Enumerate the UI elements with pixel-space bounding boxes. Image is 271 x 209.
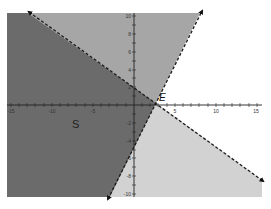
- x-tick-label: 15: [253, 108, 259, 114]
- inequality-graph: -15 -10 -5 5 10 15 10 8 6 4 2 -2 -4 -6 -…: [0, 0, 271, 209]
- y-tick-label: 4: [128, 67, 131, 73]
- y-tick-label: -8: [127, 173, 132, 179]
- y-tick-label: 8: [128, 31, 131, 37]
- x-tick-label: -15: [7, 108, 14, 114]
- x-tick-label: 5: [174, 108, 177, 114]
- y-tick-label: -2: [127, 120, 132, 126]
- y-tick-label: -10: [124, 191, 131, 197]
- y-tick-label: 6: [128, 49, 131, 55]
- solution-region-label-s: S: [72, 118, 79, 130]
- intersection-point-label-e: E: [159, 92, 166, 103]
- x-tick-label: -10: [48, 108, 55, 114]
- x-tick-label: -5: [91, 108, 96, 114]
- y-tick-label: 10: [125, 13, 131, 19]
- y-tick-label: -4: [127, 138, 132, 144]
- x-tick-label: 10: [213, 108, 219, 114]
